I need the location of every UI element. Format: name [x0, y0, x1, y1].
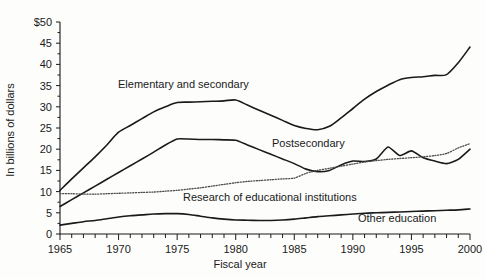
x-tick-label: 1980 — [223, 243, 247, 255]
y-tick-label: 0 — [46, 228, 52, 240]
annotation-elementary-and-secondary: Elementary and secondary — [118, 78, 249, 90]
x-tick-label: 1990 — [341, 243, 365, 255]
x-tick-label: 1975 — [165, 243, 189, 255]
annotation-research-of-educational-institutions: Research of educational institutions — [183, 191, 357, 203]
y-tick-label: 45 — [40, 37, 52, 49]
x-tick-label: 1985 — [282, 243, 306, 255]
y-tick-label: 10 — [40, 186, 52, 198]
series-line-elementary-and-secondary — [60, 47, 470, 190]
line-chart-canvas: 051015202530354045$50 196519701975198019… — [0, 0, 485, 279]
x-tick-label: 2000 — [458, 243, 482, 255]
y-tick-label: 25 — [40, 122, 52, 134]
x-tick-label: 1995 — [399, 243, 423, 255]
annotation-postsecondary: Postsecondary — [272, 137, 345, 149]
series-annotations: Elementary and secondaryPostsecondaryRes… — [118, 78, 436, 224]
y-tick-label: 30 — [40, 101, 52, 113]
chart-figure: 051015202530354045$50 196519701975198019… — [0, 0, 485, 279]
y-axis-title: In billions of dollars — [4, 83, 16, 177]
x-axis-ticks: 19651970197519801985199019952000 — [48, 234, 482, 255]
y-tick-label: 5 — [46, 207, 52, 219]
plot-area: 051015202530354045$50 196519701975198019… — [34, 16, 483, 255]
y-axis-ticks: 051015202530354045$50 — [34, 16, 60, 240]
y-tick-label: 15 — [40, 164, 52, 176]
y-tick-label: $50 — [34, 16, 52, 28]
annotation-other-education: Other education — [358, 212, 436, 224]
x-tick-label: 1970 — [106, 243, 130, 255]
y-tick-label: 40 — [40, 58, 52, 70]
y-tick-label: 35 — [40, 80, 52, 92]
x-tick-label: 1965 — [48, 243, 72, 255]
y-tick-label: 20 — [40, 143, 52, 155]
x-axis-title: Fiscal year — [213, 258, 267, 270]
